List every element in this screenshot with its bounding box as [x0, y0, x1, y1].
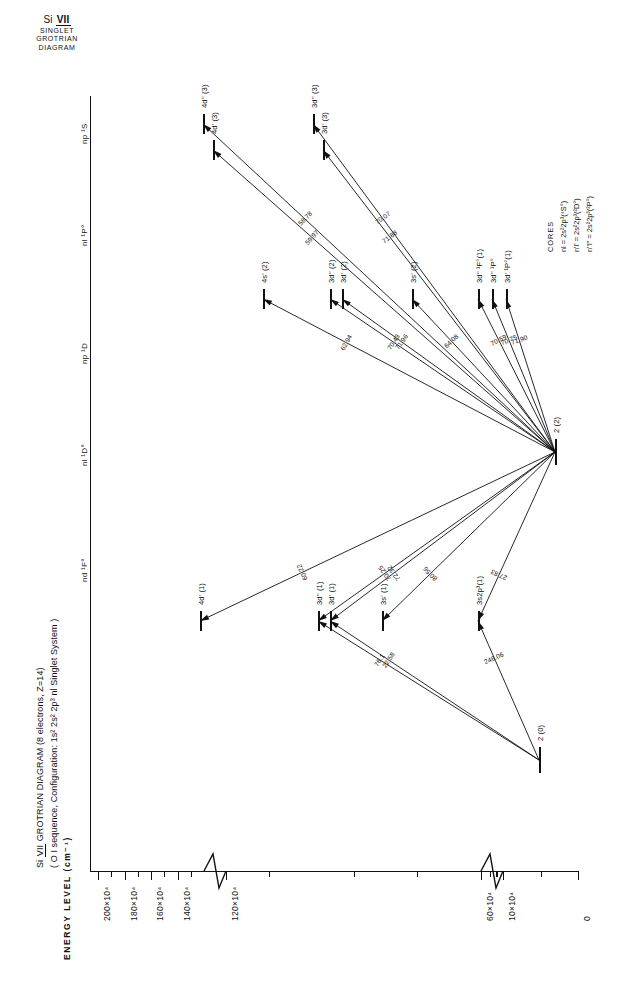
energy-level-tick — [342, 289, 344, 309]
energy-level-label: 4d' (3) — [210, 112, 219, 134]
energy-level-tick — [506, 289, 508, 309]
transition-line — [200, 452, 555, 621]
energy-level-tick — [555, 439, 557, 465]
energy-level-label: 3d'' (3) — [310, 84, 319, 108]
energy-level-tick — [382, 611, 384, 631]
cores-item-term: (²D°) — [572, 198, 581, 214]
transition-line-group — [0, 0, 621, 990]
energy-level-tick — [203, 114, 205, 134]
cores-item-list: nl = 2s²2p³(⁴S°)n'l' = 2s²2p³(²D°)n''l''… — [558, 196, 597, 252]
transition-line — [478, 452, 555, 621]
cores-heading: CORES — [545, 196, 558, 252]
transition-line — [330, 621, 539, 760]
cores-item: nl = 2s²2p³(⁴S°) — [558, 196, 571, 252]
transition-line — [330, 452, 555, 621]
energy-level-tick — [478, 611, 480, 631]
energy-level-label: 3d' ¹P°(1) — [503, 250, 512, 283]
transition-line — [330, 299, 555, 452]
cores-item: n''l'' = 2s²2p³(²P°) — [584, 196, 597, 252]
energy-level-label: 3d'' ¹F°(1) — [475, 249, 484, 283]
energy-level-tick — [263, 289, 265, 309]
energy-level-label: 3s2p³(1) — [475, 576, 484, 605]
transition-line — [478, 299, 555, 452]
energy-level-label: 4d' (1) — [197, 583, 206, 605]
energy-level-label: 3d' (1) — [327, 583, 336, 605]
cores-item: n'l' = 2s²2p³(²D°) — [571, 196, 584, 252]
energy-level-tick — [213, 140, 215, 160]
energy-level-label: 3d'' ¹P° — [489, 258, 498, 283]
energy-level-tick — [539, 747, 541, 773]
energy-level-tick — [412, 289, 414, 309]
cores-item-symbol: n''l'' — [585, 241, 594, 252]
transition-line — [318, 621, 539, 760]
energy-level-label: 2 (0) — [536, 725, 545, 741]
cores-item-equals: = — [585, 234, 594, 238]
transition-line — [203, 124, 555, 452]
cores-legend: CORES nl = 2s²2p³(⁴S°)n'l' = 2s²2p³(²D°)… — [545, 196, 597, 252]
transition-line — [263, 299, 555, 452]
cores-item-symbol: nl — [559, 246, 568, 252]
transition-line — [382, 452, 555, 621]
energy-level-label: 3d' (2) — [339, 261, 348, 283]
transition-line — [478, 621, 539, 760]
energy-level-label: 3s' (2) — [409, 261, 418, 283]
cores-item-equals: = — [559, 240, 568, 244]
energy-level-label: 3s' (1) — [379, 583, 388, 605]
transition-line — [412, 299, 555, 452]
cores-item-config: 2s²2p³ — [559, 217, 568, 238]
energy-level-tick — [313, 114, 315, 134]
energy-level-tick — [318, 611, 320, 631]
energy-level-tick — [323, 140, 325, 160]
cores-item-symbol: n'l' — [572, 243, 581, 252]
transition-line — [318, 452, 555, 621]
transition-line — [313, 124, 555, 452]
energy-level-label: 3d'' (2) — [327, 259, 336, 283]
cores-item-equals: = — [572, 237, 581, 241]
energy-level-label: 3d'' (1) — [315, 581, 324, 605]
energy-level-tick — [330, 289, 332, 309]
energy-level-label: 2 (2) — [552, 417, 561, 433]
transition-line — [323, 150, 555, 452]
energy-level-tick — [478, 289, 480, 309]
cores-item-term: (⁴S°) — [559, 201, 568, 217]
energy-level-tick — [492, 289, 494, 309]
energy-level-tick — [330, 611, 332, 631]
cores-item-config: 2s²2p³ — [572, 214, 581, 235]
energy-level-label: 4d'' (3) — [200, 84, 209, 108]
energy-level-label: 3d' (3) — [320, 112, 329, 134]
cores-item-config: 2s²2p³ — [585, 211, 594, 232]
energy-level-label: 4s' (2) — [260, 261, 269, 283]
cores-item-term: (²P°) — [585, 196, 594, 211]
energy-level-tick — [200, 611, 202, 631]
